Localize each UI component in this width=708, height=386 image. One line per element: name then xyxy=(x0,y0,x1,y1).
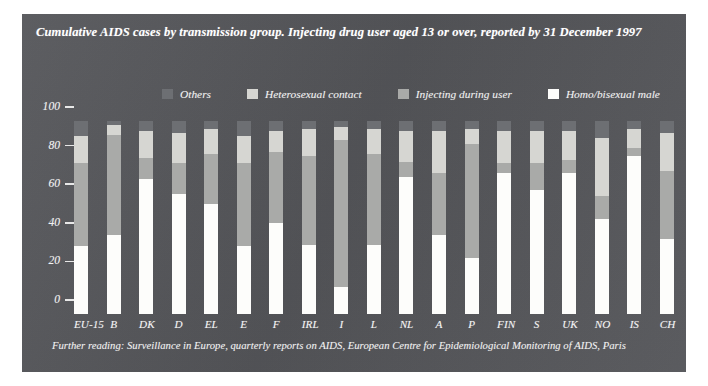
x-axis-tick-label: NL xyxy=(399,317,413,333)
bar-segment xyxy=(432,121,446,131)
bar-stack xyxy=(497,121,511,314)
bar-segment xyxy=(204,129,218,154)
bar-segment xyxy=(334,140,348,287)
bar-segment xyxy=(204,121,218,129)
bar-segment xyxy=(269,223,283,314)
bar-segment xyxy=(465,121,479,129)
legend-swatch-icon xyxy=(162,89,173,99)
bar-segment xyxy=(465,258,479,314)
bar-segment xyxy=(302,121,316,129)
x-axis-tick-label: DK xyxy=(139,317,153,333)
y-axis: 020406080100 xyxy=(22,107,74,314)
y-axis-tick: 80 xyxy=(48,140,74,152)
bar-segment xyxy=(204,154,218,204)
legend-label: Homo/bisexual male xyxy=(566,88,660,100)
bar-segment xyxy=(530,121,544,131)
x-axis-tick-label: D xyxy=(172,317,186,333)
bar-segment xyxy=(269,152,283,223)
bar-segment xyxy=(595,138,609,196)
legend-swatch-icon xyxy=(548,89,559,99)
bar-segment xyxy=(302,245,316,314)
bar-segment xyxy=(497,131,511,164)
bar-stack xyxy=(269,121,283,314)
bar-segment xyxy=(399,131,413,162)
bar-segment xyxy=(302,156,316,245)
x-axis-tick-label: IS xyxy=(627,317,641,333)
legend-swatch-icon xyxy=(247,89,258,99)
bar-segment xyxy=(660,133,674,172)
bar-segment xyxy=(497,121,511,131)
bar-segment xyxy=(334,287,348,314)
bar-segment xyxy=(399,121,413,131)
legend-label: Injecting during user xyxy=(416,88,512,100)
x-axis-tick-label: EU-15 xyxy=(74,317,88,333)
bar-stack xyxy=(237,121,251,314)
x-axis-tick-label: B xyxy=(107,317,121,333)
legend-label: Others xyxy=(180,88,211,100)
chart-panel: Cumulative AIDS cases by transmission gr… xyxy=(22,14,686,372)
plot-area xyxy=(74,107,674,314)
bar-segment xyxy=(399,177,413,314)
x-axis-tick-label: EL xyxy=(204,317,218,333)
legend-item: Homo/bisexual male xyxy=(548,88,660,100)
bar-segment xyxy=(432,235,446,314)
bar-segment xyxy=(660,239,674,314)
bar-segment xyxy=(172,133,186,164)
bar-segment xyxy=(562,173,576,314)
bar-segment xyxy=(334,127,348,141)
y-axis-tick: 40 xyxy=(48,217,74,229)
x-axis-tick-label: P xyxy=(465,317,479,333)
y-axis-tick-label: 0 xyxy=(54,294,60,306)
bar-segment xyxy=(399,162,413,177)
x-axis-tick-label: E xyxy=(237,317,251,333)
bar-segment xyxy=(530,131,544,164)
y-axis-tick: 0 xyxy=(54,294,74,306)
bar-segment xyxy=(269,121,283,131)
bar-segment xyxy=(562,121,576,131)
bar-segment xyxy=(74,163,88,246)
bar-segment xyxy=(432,173,446,235)
bar-stack xyxy=(432,121,446,314)
y-axis-tick-mark xyxy=(65,299,74,301)
bar-segment xyxy=(107,125,121,135)
chart-legend: OthersHeterosexual contactInjecting duri… xyxy=(162,86,660,102)
bar-segment xyxy=(237,246,251,314)
legend-item: Heterosexual contact xyxy=(247,88,362,100)
bar-stack xyxy=(204,121,218,314)
bar-stack xyxy=(172,121,186,314)
bar-segment xyxy=(432,131,446,173)
bar-segment xyxy=(269,131,283,152)
bar-segment xyxy=(660,121,674,133)
chart-page: Cumulative AIDS cases by transmission gr… xyxy=(0,0,708,386)
bar-segment xyxy=(562,160,576,174)
bar-segment xyxy=(627,121,641,129)
x-axis-tick-label: FIN xyxy=(497,317,511,333)
bar-segment xyxy=(497,173,511,314)
bar-segment xyxy=(74,246,88,314)
bar-stack xyxy=(562,121,576,314)
bar-segment xyxy=(465,129,479,144)
bar-segment xyxy=(530,190,544,314)
bar-segment xyxy=(562,131,576,160)
legend-swatch-icon xyxy=(398,89,409,99)
y-axis-tick-mark xyxy=(65,261,74,263)
bar-segment xyxy=(660,171,674,239)
y-axis-tick-mark xyxy=(65,106,74,108)
bar-segment xyxy=(107,235,121,314)
bar-segment xyxy=(139,179,153,314)
bar-segment xyxy=(627,156,641,314)
y-axis-tick-label: 40 xyxy=(48,217,60,229)
y-axis-tick: 60 xyxy=(48,178,74,190)
bar-segment xyxy=(465,144,479,258)
x-axis-tick-label: F xyxy=(269,317,283,333)
bar-stack xyxy=(367,121,381,314)
bar-stack xyxy=(595,121,609,314)
bar-segment xyxy=(139,121,153,131)
bar-segment xyxy=(595,121,609,138)
bar-stack xyxy=(139,121,153,314)
x-axis-tick-label: S xyxy=(530,317,544,333)
y-axis-tick-mark xyxy=(65,183,74,185)
bar-segment xyxy=(627,148,641,156)
legend-label: Heterosexual contact xyxy=(265,88,362,100)
bar-segment xyxy=(172,121,186,133)
